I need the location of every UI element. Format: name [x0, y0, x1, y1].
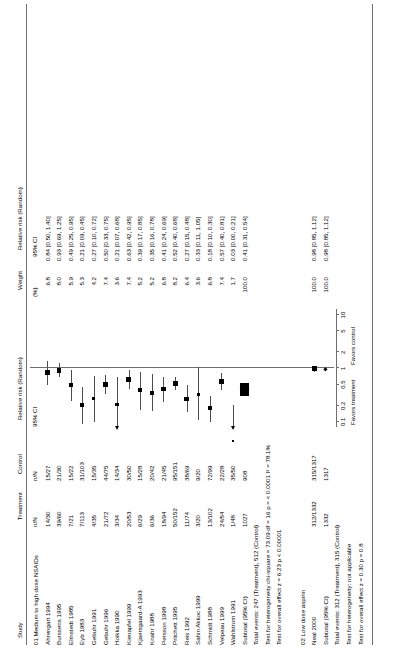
control-events: 15/28	[134, 445, 146, 481]
axis-tick-label: 1	[340, 367, 346, 370]
relative-risk-ci: 0.49 [0.25, 0.95]	[65, 181, 77, 261]
relative-risk-ci: 0.33 [0.11, 1.05]	[192, 181, 204, 261]
study-name: Gebuhr 1996	[100, 609, 112, 645]
treatment-events: 50/152	[169, 491, 181, 527]
subtotal-control: 908	[239, 445, 251, 481]
weight-value: 5.2	[134, 277, 146, 299]
study-name: Persson 1998	[158, 607, 170, 645]
control-events: 15/35	[88, 445, 100, 481]
relative-risk-ci: 0.27 [0.10, 0.72]	[88, 181, 100, 261]
control-events: 15/22	[65, 445, 77, 481]
effect-size-marker	[57, 368, 62, 373]
statistics-text: Test for overall effect z = 6.23 p < 0.0…	[273, 530, 285, 645]
weight-value: 6.8	[204, 277, 216, 299]
study-name: Knahr 1988	[146, 613, 158, 645]
footer-divider	[372, 4, 373, 645]
effect-size-marker	[197, 393, 200, 396]
control-events: 35/50	[227, 445, 239, 481]
control-events: 30/50	[123, 445, 135, 481]
control-events: 21/30	[53, 445, 65, 481]
study-name: Elmstedt 1985	[65, 605, 77, 645]
effect-size-marker	[103, 382, 108, 387]
axis-tick-label: 0.1	[340, 418, 346, 426]
relative-risk-ci: 0.52 [0.40, 0.68]	[169, 181, 181, 261]
relative-risk-ci: 0.84 [0.50, 1.40]	[42, 181, 54, 261]
control-events: 315/1317	[308, 445, 320, 481]
effect-size-marker	[92, 397, 95, 400]
weight-value: 6.4	[181, 277, 193, 299]
relative-risk-ci: 0.27 [0.15, 0.48]	[181, 181, 193, 261]
subtotal-treatment: 1332	[320, 491, 332, 527]
study-name: Eyb 1983	[76, 619, 88, 645]
weight-value: 7.4	[216, 277, 228, 299]
effect-size-marker	[184, 397, 188, 401]
statistics-text: Total events: 312 (Treatment), 315 (Cont…	[331, 525, 343, 645]
axis-tick-label: 0.2	[340, 402, 346, 410]
control-events: 20/42	[146, 445, 158, 481]
effect-size-marker	[161, 387, 165, 391]
relative-risk-ci: 0.21 [0.07, 0.68]	[111, 181, 123, 261]
favors-treatment-label: Favors treatment	[350, 380, 356, 425]
effect-size-marker	[115, 403, 118, 406]
study-name: Pritchett 1995	[169, 607, 181, 645]
axis-tick	[336, 384, 339, 385]
study-name: Kjaersgaard-A 1993	[134, 590, 146, 645]
control-events: 95/151	[169, 445, 181, 481]
forest-plot: Study Treatment n/N Control n/N Relative…	[0, 0, 411, 649]
subtotal-weight: 100.0	[320, 277, 332, 299]
treatment-events: 7/21	[65, 491, 77, 527]
effect-size-marker	[126, 377, 131, 382]
treatment-events: 20/53	[123, 491, 135, 527]
favors-control-label: Favors control	[350, 327, 356, 365]
no-effect-line	[30, 367, 334, 368]
study-name: Schmidt 1988	[204, 607, 216, 645]
treatment-events: 6/36	[146, 491, 158, 527]
treatment-events: 3/34	[111, 491, 123, 527]
effect-size-marker	[173, 381, 178, 386]
treatment-events: 24/54	[216, 491, 228, 527]
axis-tick-label: 2	[340, 351, 346, 354]
weight-value: 7.4	[123, 277, 135, 299]
treatment-events: 18/94	[158, 491, 170, 527]
study-name: Sahin Akkoc 1999	[192, 595, 204, 645]
axis-tick-label: 5	[340, 329, 346, 332]
subtotal-control: 1317	[320, 445, 332, 481]
rotated-page-wrapper: Study Treatment n/N Control n/N Relative…	[0, 0, 411, 649]
subtotal-relative-risk-ci: 0.98 [0.85, 1.12]	[320, 181, 332, 261]
statistics-text: Total events: 247 (Treatment), 512 (Cont…	[250, 525, 262, 645]
group-heading-label: 02 Low dose aspirin	[297, 590, 309, 645]
control-events: 22/28	[216, 445, 228, 481]
weight-value: 8.0	[53, 277, 65, 299]
ci-arrow-icon	[115, 426, 119, 430]
subtotal-label: Subtotal (95% CI)	[320, 596, 332, 645]
treatment-events: 21/72	[100, 491, 112, 527]
effect-size-marker	[208, 406, 212, 410]
axis-tick-label: 10	[340, 312, 346, 319]
treatment-events: 4/35	[88, 491, 100, 527]
axis-tick	[336, 421, 339, 422]
treatment-events: 13/102	[204, 491, 216, 527]
weight-value: 3.6	[111, 277, 123, 299]
ci-arrow-icon	[231, 426, 235, 430]
relative-risk-ci: 0.35 [0.16, 0.78]	[146, 181, 158, 261]
weight-value: 7.4	[100, 277, 112, 299]
relative-risk-ci: 0.98 [0.85, 1.12]	[308, 181, 320, 261]
relative-risk-ci: 0.93 [0.69, 1.25]	[53, 181, 65, 261]
subtotal-relative-risk-ci: 0.41 [0.31, 0.54]	[239, 181, 251, 261]
treatment-events: 6/29	[134, 491, 146, 527]
axis-tick	[336, 367, 339, 368]
subtotal-weight: 100.0	[239, 277, 251, 299]
weight-value: 5.9	[65, 277, 77, 299]
treatment-events: 7/113	[76, 491, 88, 527]
weight-value: 5.2	[146, 277, 158, 299]
group-heading-label: 01 Medium to high dose NSAIDs	[30, 555, 42, 645]
study-name: Gebuhr 1991	[88, 609, 100, 645]
relative-risk-ci: 0.18 [0.10, 0.30]	[204, 181, 216, 261]
study-name: Ahrengart 1994	[42, 602, 54, 645]
control-events: 72/99	[204, 445, 216, 481]
statistics-text: Test for overall effect z = 0.30 p = 0.8	[355, 543, 367, 645]
weight-value: 8.2	[169, 277, 181, 299]
control-events: 44/75	[100, 445, 112, 481]
relative-risk-ci: 0.03 [0.00, 0.21]	[227, 181, 239, 261]
control-events: 31/103	[76, 445, 88, 481]
